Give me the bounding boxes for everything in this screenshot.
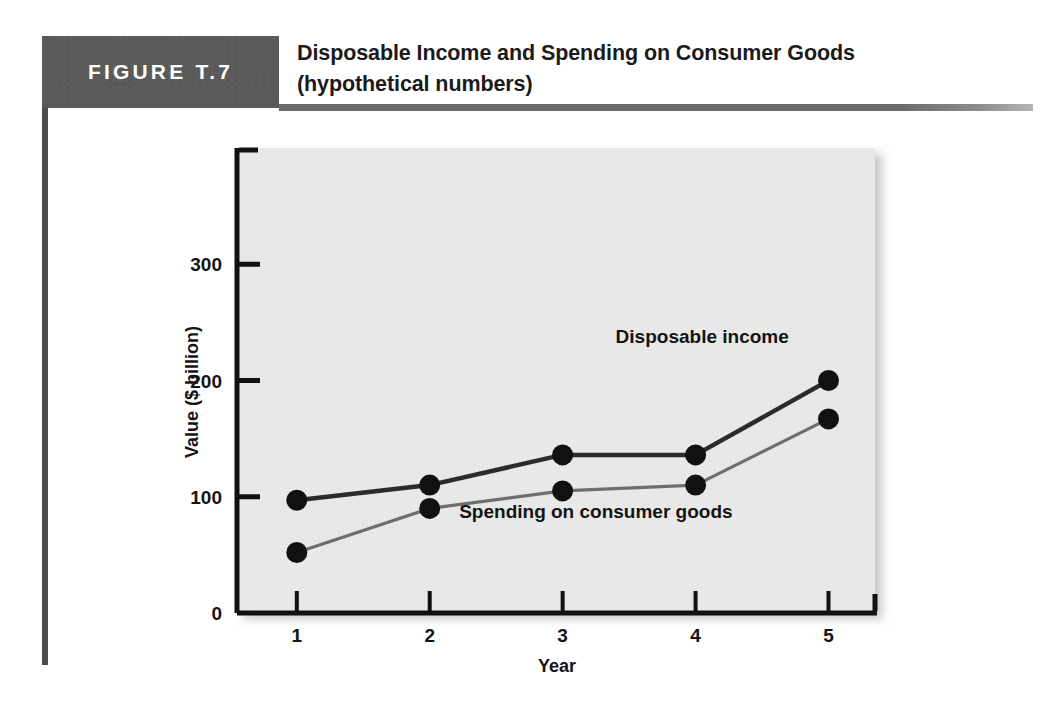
data-point-marker (286, 542, 307, 563)
series-annotation-1: Disposable income (616, 326, 789, 347)
y-axis-tick-label: 300 (190, 254, 222, 275)
y-axis-title: Value ($ billion) (182, 326, 202, 458)
x-axis-tick-labels: 12345 (292, 625, 835, 646)
data-point-marker (419, 498, 440, 519)
data-point-marker (419, 475, 440, 496)
figure-page: FIGURE T.7 Disposable Income and Spendin… (0, 0, 1050, 703)
x-axis-tick-label: 3 (557, 625, 568, 646)
x-axis-tick-label: 1 (292, 625, 303, 646)
data-point-marker (552, 480, 573, 501)
data-point-marker (685, 444, 706, 465)
data-point-marker (818, 370, 839, 391)
y-axis-tick-label: 100 (190, 487, 222, 508)
data-point-marker (552, 444, 573, 465)
chart-svg: 0100200300 12345 Disposable incomeSpendi… (0, 0, 1050, 703)
plot-background (237, 148, 875, 613)
data-point-marker (818, 408, 839, 429)
x-axis-tick-label: 4 (690, 625, 701, 646)
y-axis-tick-label: 0 (211, 603, 222, 624)
data-point-marker (685, 475, 706, 496)
x-axis-title: Year (538, 656, 576, 676)
line-chart: 0100200300 12345 Disposable incomeSpendi… (0, 0, 1050, 703)
x-axis-tick-label: 5 (823, 625, 834, 646)
data-point-marker (286, 490, 307, 511)
x-axis-tick-label: 2 (424, 625, 435, 646)
series-annotation-2: Spending on consumer goods (459, 501, 732, 522)
